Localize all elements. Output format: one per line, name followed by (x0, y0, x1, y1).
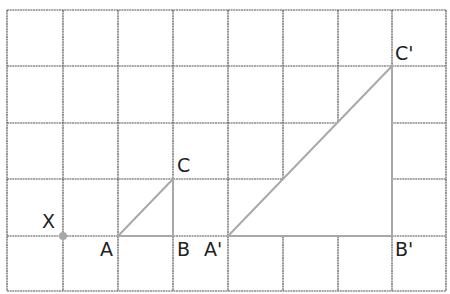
label-c-prime: C' (395, 42, 414, 64)
center-of-enlargement-point (59, 232, 67, 240)
label-a: A (100, 238, 113, 260)
label-x: X (42, 210, 55, 232)
label-b-prime: B' (395, 238, 413, 260)
label-c: C (177, 154, 190, 176)
label-a-prime: A' (204, 238, 222, 260)
triangle-abc (118, 179, 173, 236)
label-b: B (177, 238, 190, 260)
triangle-a-prime-b-prime-c-prime (228, 66, 392, 236)
enlargement-diagram: X A B C A' B' C' (0, 0, 450, 294)
